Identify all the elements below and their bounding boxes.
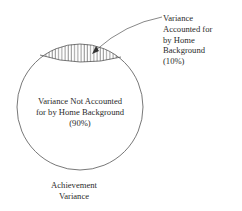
inner-line: Variance Not Accounted <box>30 96 130 107</box>
caption-line: Achievement <box>42 180 106 191</box>
callout-line: Accounted for <box>163 24 212 35</box>
callout-line: (10%) <box>163 56 212 67</box>
inner-line: for by Home Background <box>30 107 130 118</box>
diagram-caption: Achievement Variance <box>42 180 106 202</box>
callout-line: by Home <box>163 35 212 46</box>
inner-line: (90%) <box>30 118 130 129</box>
callout-line: Variance <box>163 13 212 24</box>
callout-line: Background <box>163 45 212 56</box>
caption-line: Variance <box>42 191 106 202</box>
callout-label: Variance Accounted for by Home Backgroun… <box>163 13 212 67</box>
inner-label: Variance Not Accounted for by Home Backg… <box>30 96 130 128</box>
explained-variance-segment <box>40 30 121 62</box>
